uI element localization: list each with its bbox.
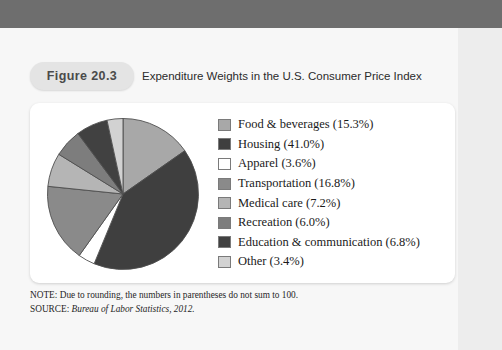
chart-card: Food & beverages (15.3%)Housing (41.0%)A… — [30, 103, 455, 283]
legend-label: Recreation (6.0%) — [238, 215, 330, 230]
page-top-band — [0, 0, 502, 28]
figure-page: Figure 20.3 Expenditure Weights in the U… — [0, 0, 502, 350]
figure-number-badge: Figure 20.3 — [30, 62, 134, 90]
legend-label: Medical care (7.2%) — [238, 196, 340, 211]
legend-item: Apparel (3.6%) — [218, 154, 446, 174]
legend-item: Transportation (16.8%) — [218, 174, 446, 194]
figure-note: NOTE: Due to rounding, the numbers in pa… — [30, 289, 460, 303]
figure-source: SOURCE: Bureau of Labor Statistics, 2012… — [30, 303, 460, 317]
legend-swatch — [218, 197, 231, 209]
legend-item: Food & beverages (15.3%) — [218, 115, 446, 135]
legend-swatch — [218, 119, 231, 131]
source-text: Bureau of Labor Statistics, 2012. — [72, 304, 195, 314]
legend-swatch — [218, 138, 231, 150]
source-prefix: SOURCE: — [30, 304, 72, 314]
legend-swatch — [218, 256, 231, 268]
note-prefix: NOTE: — [30, 290, 60, 300]
pie-chart-svg — [46, 117, 200, 271]
legend-label: Apparel (3.6%) — [238, 156, 316, 171]
legend-label: Transportation (16.8%) — [238, 176, 355, 191]
legend-item: Medical care (7.2%) — [218, 193, 446, 213]
figure-footnotes: NOTE: Due to rounding, the numbers in pa… — [30, 289, 460, 316]
note-text: Due to rounding, the numbers in parenthe… — [60, 290, 298, 300]
legend-item: Housing (41.0%) — [218, 135, 446, 155]
legend-label: Housing (41.0%) — [238, 137, 324, 152]
figure-title: Expenditure Weights in the U.S. Consumer… — [142, 62, 422, 90]
legend-item: Recreation (6.0%) — [218, 213, 446, 233]
legend-swatch — [218, 158, 231, 170]
chart-legend: Food & beverages (15.3%)Housing (41.0%)A… — [218, 115, 446, 272]
legend-swatch — [218, 178, 231, 190]
legend-label: Other (3.4%) — [238, 254, 304, 269]
legend-label: Education & communication (6.8%) — [238, 235, 420, 250]
figure-header: Figure 20.3 Expenditure Weights in the U… — [30, 62, 455, 92]
pie-chart — [46, 117, 200, 271]
legend-swatch — [218, 217, 231, 229]
legend-label: Food & beverages (15.3%) — [238, 117, 373, 132]
legend-item: Other (3.4%) — [218, 252, 446, 272]
page-right-gutter — [458, 28, 502, 350]
figure-number-label: Figure 20.3 — [30, 62, 134, 90]
legend-item: Education & communication (6.8%) — [218, 233, 446, 253]
legend-swatch — [218, 236, 231, 248]
